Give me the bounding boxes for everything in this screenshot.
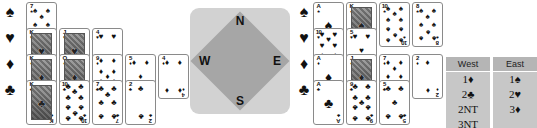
pip-club: ♣ (72, 88, 77, 96)
bidding-header-west: West (446, 57, 490, 71)
card-2-club[interactable]: 2♣2♣♣♣ (125, 80, 156, 125)
pip-diamond: ♦ (425, 86, 429, 94)
west-club-icon: ♣ (1, 82, 19, 98)
card-10-spade[interactable]: 10♠10♠♠♠♠♠♠♠♠♠♠♠ (379, 2, 410, 47)
pip-diamond: ♦ (112, 57, 116, 65)
pip-spade: ♠ (386, 36, 390, 44)
pip-club: ♣ (105, 91, 110, 99)
pip-club: ♣ (72, 109, 77, 117)
pip-spade: ♠ (425, 28, 429, 36)
card-index: A♣ (315, 82, 322, 91)
east-spade-icon: ♠ (295, 4, 313, 20)
bid-cell-west-2: 2♣ (446, 87, 490, 102)
compass-north-label: N (236, 15, 245, 27)
card-10-club[interactable]: 10♣10♣♣♣♣♣♣♣♣♣♣♣ (59, 80, 90, 125)
compass-west-label: W (199, 55, 210, 67)
pip-club: ♣ (385, 85, 390, 93)
card-9-club[interactable]: 9♣9♣♣♣♣♣♣♣♣♣♣ (346, 80, 377, 125)
pip-club: ♣ (398, 85, 403, 93)
pip-club: ♣ (365, 83, 370, 91)
pip-club: ♣ (111, 112, 116, 120)
compass-rose: N E S W (190, 8, 290, 114)
bid-cell-east-4 (493, 117, 537, 128)
pip-spade: ♠ (39, 13, 43, 21)
bid-cell-east-1: 1♠ (493, 72, 537, 87)
west-spade-icon: ♠ (1, 4, 19, 20)
card-index: 2♣ (127, 82, 134, 91)
pip-club: ♣ (138, 85, 143, 93)
east-heart-icon: ♥ (295, 30, 313, 46)
pip-club: ♣ (78, 94, 83, 102)
pip-club: ♣ (365, 94, 370, 102)
compass-south-label: S (236, 95, 244, 107)
pip-diamond: ♦ (178, 86, 182, 94)
card-index: 2♣ (147, 114, 154, 123)
pip-club: ♣ (78, 83, 83, 91)
pip-club: ♣ (65, 83, 70, 91)
pip-diamond: ♦ (399, 59, 403, 67)
pip-diamond: ♦ (145, 59, 149, 67)
west-diamond-icon: ♦ (1, 56, 19, 72)
pip-club: ♣ (385, 112, 390, 120)
east-club-icon: ♣ (295, 82, 313, 98)
pip-club: ♣ (78, 114, 83, 122)
pip-diamond: ♦ (178, 59, 182, 67)
pip-club: ♣ (98, 99, 103, 107)
pip-club: ♣ (352, 114, 357, 122)
bid-cell-east-3: 3♦ (493, 102, 537, 117)
pip-heart: ♥ (333, 31, 338, 39)
pip-club: ♣ (365, 103, 370, 111)
pip-spade: ♠ (386, 25, 390, 33)
card-7-club[interactable]: 7♣7♣♣♣♣♣♣♣♣ (92, 80, 123, 125)
bidding-header-east: East (493, 57, 537, 71)
pip-spade: ♠ (419, 7, 423, 15)
pip-spade: ♠ (399, 36, 403, 44)
bid-cell-west-4: 3NT (446, 117, 490, 128)
pip-heart: ♥ (99, 33, 104, 41)
card-A-club[interactable]: A♣A♣♣ (313, 80, 344, 125)
pip-heart: ♥ (320, 31, 325, 39)
pip-club: ♣ (138, 112, 143, 120)
pip-heart: ♥ (112, 33, 117, 41)
pip-heart: ♥ (320, 42, 325, 50)
pip-club: ♣ (352, 94, 357, 102)
card-index: 2♦ (434, 88, 441, 97)
pip-diamond: ♦ (99, 57, 103, 65)
bidding-column-west: West 1♦2♣2NT3NT (446, 57, 490, 128)
pip-spade: ♠ (432, 21, 436, 29)
card-8-spade[interactable]: 8♠8♠♠♠♠♠♠♠♠♠ (412, 2, 443, 47)
pip-heart: ♥ (366, 33, 371, 41)
pip-club: ♣ (98, 85, 103, 93)
pip-heart: ♥ (326, 36, 331, 44)
pip-club: ♣ (359, 99, 364, 107)
west-heart-icon: ♥ (1, 30, 19, 46)
bid-cell-west-1: 1♦ (446, 72, 490, 87)
pip-spade: ♠ (432, 7, 436, 15)
bid-cell-west-3: 2NT (446, 102, 490, 117)
pip-spade: ♠ (33, 7, 37, 15)
pip-spade: ♠ (425, 13, 429, 21)
card-K-club[interactable]: K♣K♣♣ (26, 80, 57, 125)
pip-spade: ♠ (399, 16, 403, 24)
card-5-club[interactable]: 5♣5♣♣♣♣♣♣ (379, 80, 410, 125)
pip-club: ♣ (324, 96, 333, 110)
pip-club: ♣ (352, 83, 357, 91)
pip-diamond: ♦ (165, 86, 169, 94)
card-index: A♠ (315, 4, 322, 13)
pip-spade: ♠ (386, 5, 390, 13)
card-2-diamond[interactable]: 2♦2♦♦♦ (412, 54, 443, 99)
pip-diamond: ♦ (99, 68, 103, 76)
east-diamond-icon: ♦ (295, 56, 313, 72)
pip-club: ♣ (352, 103, 357, 111)
pip-diamond: ♦ (112, 68, 116, 76)
card-4-diamond[interactable]: 4♦4♦♦♦♦♦ (158, 54, 189, 99)
pip-club: ♣ (365, 114, 370, 122)
pip-spade: ♠ (46, 7, 50, 15)
compass-east-label: E (273, 55, 281, 67)
bidding-column-east: East 1♠2♥3♦ (493, 57, 537, 128)
pip-diamond: ♦ (165, 59, 169, 67)
card-index: 2♦ (414, 56, 421, 65)
pip-club: ♣ (65, 103, 70, 111)
card-index: A♦ (315, 56, 322, 65)
pip-diamond: ♦ (425, 59, 429, 67)
